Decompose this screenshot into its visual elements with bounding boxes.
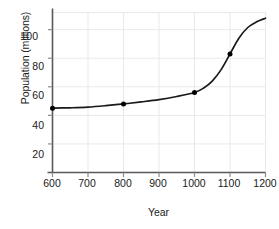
x-tick-label: 1100 — [212, 177, 246, 189]
data-point-marker — [192, 90, 197, 95]
x-tick-label: 1200 — [248, 177, 279, 189]
y-tick-label: 80 — [18, 60, 44, 72]
population-line-chart: Population (millions) Year 20 40 60 80 1… — [0, 0, 279, 229]
y-tick-label: 20 — [18, 148, 44, 160]
y-tick-label: 100 — [12, 30, 38, 42]
x-tick-label: 800 — [106, 177, 140, 189]
data-point-marker — [121, 101, 126, 106]
y-tick-label: 60 — [18, 89, 44, 101]
x-tick-label: 700 — [70, 177, 104, 189]
y-tick-label: 40 — [18, 119, 44, 131]
data-point-marker — [50, 106, 55, 111]
x-axis-label: Year — [52, 206, 265, 218]
x-tick-label: 900 — [141, 177, 175, 189]
data-point-marker — [228, 51, 233, 56]
x-tick-label: 1000 — [177, 177, 211, 189]
chart-plot-area — [0, 0, 279, 229]
x-tick-label: 600 — [35, 177, 69, 189]
